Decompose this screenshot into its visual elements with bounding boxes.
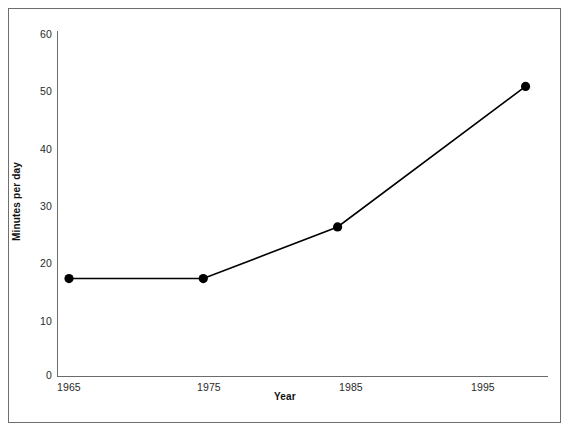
series-markers <box>64 82 530 283</box>
data-series-layer <box>0 0 570 431</box>
chart-figure: 60 50 40 30 20 10 0 1965 1975 1985 <box>0 0 570 431</box>
data-point <box>199 274 208 283</box>
data-point <box>521 82 530 91</box>
data-point <box>64 274 73 283</box>
data-point <box>333 222 342 231</box>
series-line-minutes-per-day <box>69 86 526 278</box>
plot-area: 60 50 40 30 20 10 0 1965 1975 1985 <box>0 0 570 431</box>
